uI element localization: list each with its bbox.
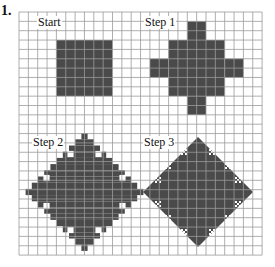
label-step-1: Step 1 (144, 16, 176, 29)
label-start: Start (37, 16, 62, 29)
fractal-grid-figure (0, 0, 275, 267)
label-step-3: Step 3 (143, 136, 175, 149)
label-step-2: Step 2 (32, 136, 64, 149)
